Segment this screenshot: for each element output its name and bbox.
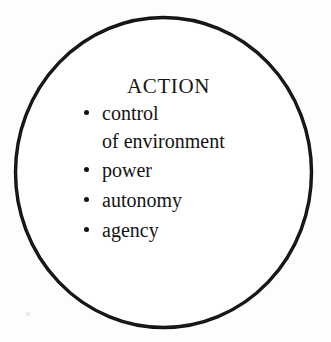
bullet-dot-icon	[84, 167, 89, 172]
bullet-dot-icon	[84, 227, 89, 232]
list-item-label: control	[102, 99, 324, 127]
diagram-heading: ACTION	[0, 74, 331, 99]
list-item-label: power	[102, 156, 324, 184]
list-item: autonomy	[84, 186, 324, 214]
list-item-label: agency	[102, 216, 324, 244]
list-item-label: autonomy	[102, 186, 324, 214]
diagram-canvas: ACTION control of environment power auto…	[0, 0, 331, 342]
bullet-dot-icon	[84, 110, 89, 115]
list-item: control of environment	[84, 99, 324, 155]
list-item: agency	[84, 216, 324, 244]
bullet-dot-icon	[84, 197, 89, 202]
attribute-list: control of environment power autonomy ag…	[84, 99, 324, 244]
list-item: power	[84, 156, 324, 184]
circle-content: ACTION control of environment power auto…	[0, 74, 331, 244]
scan-artifact	[26, 312, 30, 316]
list-item-continuation: of environment	[102, 127, 324, 155]
